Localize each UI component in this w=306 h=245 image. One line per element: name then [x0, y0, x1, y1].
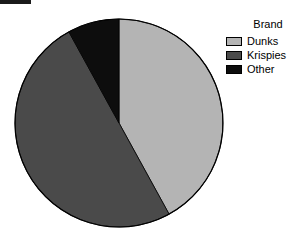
pie-chart-screenshot: Brand Dunks Krispies Other	[0, 0, 306, 245]
legend: Brand Dunks Krispies Other	[226, 18, 306, 77]
legend-label-krispies: Krispies	[247, 49, 286, 62]
legend-item-krispies[interactable]: Krispies	[226, 49, 306, 62]
pie-chart-svg	[14, 18, 224, 228]
legend-title: Brand	[226, 18, 306, 31]
legend-swatch-other	[226, 65, 242, 74]
legend-item-dunks[interactable]: Dunks	[226, 35, 306, 48]
legend-item-other[interactable]: Other	[226, 63, 306, 76]
legend-swatch-krispies	[226, 51, 242, 60]
legend-label-other: Other	[247, 63, 275, 76]
top-left-marker-bar	[0, 0, 31, 4]
legend-label-dunks: Dunks	[247, 35, 278, 48]
pie-chart-figure	[14, 18, 224, 228]
legend-swatch-dunks	[226, 37, 242, 46]
pie-slices	[15, 19, 223, 227]
